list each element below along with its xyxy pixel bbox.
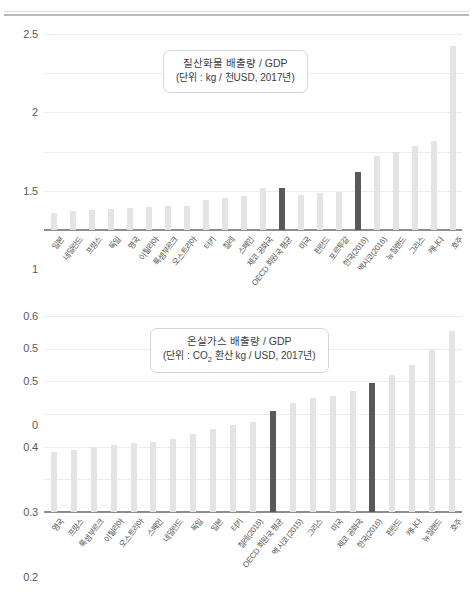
bar <box>89 210 95 230</box>
bar <box>429 349 435 512</box>
x-axis-tick-label: 캐나다 <box>424 234 445 257</box>
x-axis-tick-label: 호주 <box>447 516 464 533</box>
nitrogen-oxides-chart: 00.511.522.5일본네덜란드프랑스독일영국이탈리아룩셈부르크오스트리아터… <box>0 28 473 288</box>
bar <box>70 211 76 230</box>
bar <box>150 442 156 512</box>
page-divider <box>4 14 469 16</box>
bar <box>279 188 285 230</box>
y-axis-tick-label: 2 <box>32 106 38 118</box>
y-axis-tick-label: 0.6 <box>23 310 38 322</box>
y-axis-tick-label: 0.2 <box>23 571 38 583</box>
x-axis-tick-label: 프랑스 <box>82 234 103 257</box>
bar <box>222 198 228 230</box>
bar <box>412 146 418 230</box>
x-axis-tick-label: 영국 <box>124 234 141 251</box>
bar <box>165 206 171 230</box>
x-axis-tick-label: 독일 <box>188 516 205 533</box>
gridline: 1 <box>44 152 462 153</box>
greenhouse-gas-title: 온실가스 배출량 / GDP <box>163 334 316 349</box>
bar <box>393 152 399 230</box>
bar <box>51 452 57 512</box>
bar <box>260 188 266 230</box>
bar <box>170 439 176 513</box>
x-axis-tick-label: 터키 <box>228 516 245 533</box>
nitrogen-oxides-subtitle: (단위 : kg / 천USD, 2017년) <box>176 71 295 86</box>
bar <box>131 443 137 512</box>
x-axis-tick-label: 미국 <box>327 516 344 533</box>
y-axis-tick-label: 2.5 <box>23 28 38 40</box>
bar <box>355 172 361 230</box>
bar <box>317 193 323 230</box>
y-axis-tick-label: 0.3 <box>23 506 38 518</box>
greenhouse-gas-chart: 00.10.20.30.40.50.6영국프랑스룩셈부르크이탈리아오스트리아스페… <box>0 310 473 600</box>
x-axis-tick-label: 일본 <box>48 234 65 251</box>
bar <box>230 425 236 512</box>
bar <box>91 447 97 512</box>
bar <box>298 195 304 230</box>
bar <box>290 403 296 512</box>
bar <box>389 375 395 512</box>
greenhouse-gas-subtitle: (단위 : CO2 환산 kg / USD, 2017년) <box>163 349 316 366</box>
bar <box>409 365 415 512</box>
gridline: 2.5 <box>44 34 462 35</box>
bar <box>450 46 456 230</box>
x-axis-tick-label: 그리스 <box>303 516 324 539</box>
bar <box>310 398 316 512</box>
greenhouse-gas-title-box: 온실가스 배출량 / GDP (단위 : CO2 환산 kg / USD, 20… <box>150 328 329 373</box>
gridline: 0.4 <box>44 381 462 382</box>
bar <box>270 411 276 512</box>
bar <box>190 434 196 512</box>
bar <box>203 200 209 230</box>
gridline: 1.5 <box>44 112 462 113</box>
bar <box>146 207 152 230</box>
y-axis-tick-label: 1.5 <box>23 185 38 197</box>
bar <box>374 156 380 230</box>
x-axis-tick-label: 그리스 <box>405 234 426 257</box>
bar <box>184 206 190 230</box>
nitrogen-oxides-title: 질산화물 배출량 / GDP <box>176 56 295 71</box>
x-axis-tick-label: 핀란드 <box>383 516 404 539</box>
x-axis-tick-label: 미국 <box>295 234 312 251</box>
gridline: 0.6 <box>44 316 462 317</box>
bar <box>51 213 57 230</box>
x-axis-tick-label: 영국 <box>49 516 66 533</box>
y-axis-tick-label: 1 <box>32 263 38 275</box>
bar <box>369 383 375 512</box>
bar <box>241 196 247 230</box>
bar <box>350 391 356 512</box>
nitrogen-oxides-title-box: 질산화물 배출량 / GDP (단위 : kg / 천USD, 2017년) <box>163 50 308 93</box>
bar <box>336 192 342 230</box>
x-axis-tick-label: 터키 <box>200 234 217 251</box>
bar <box>449 331 455 512</box>
bar <box>431 141 437 230</box>
y-axis-tick-label: 0.4 <box>23 441 38 453</box>
x-axis-tick-label: 뉴질랜드 <box>419 516 444 544</box>
bar <box>250 422 256 512</box>
bar <box>111 445 117 512</box>
gridline: 0.3 <box>44 414 462 415</box>
bar <box>330 396 336 512</box>
bar <box>210 429 216 512</box>
bar <box>127 208 133 230</box>
bar <box>108 209 114 230</box>
gridline: 0.5 <box>44 191 462 192</box>
y-axis-tick-label: 0.5 <box>23 375 38 387</box>
x-axis-tick-label: 칠레 <box>219 234 236 251</box>
x-axis-tick-label: 네덜란드 <box>160 516 185 544</box>
x-axis-tick-label: 독일 <box>105 234 122 251</box>
x-axis-tick-label: 호주 <box>447 234 464 251</box>
chart-page: 00.511.522.5일본네덜란드프랑스독일영국이탈리아룩셈부르크오스트리아터… <box>0 0 473 609</box>
page-divider-thin <box>4 11 469 12</box>
bar <box>71 450 77 512</box>
x-axis-tick-label: 일본 <box>208 516 225 533</box>
